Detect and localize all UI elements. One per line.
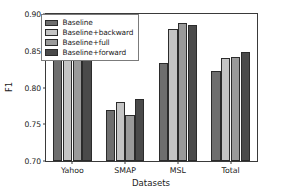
legend-swatch-icon	[45, 29, 58, 35]
x-axis-label: Datasets	[132, 178, 170, 188]
x-tick-label: Total	[222, 166, 240, 175]
y-axis-label: F1	[4, 82, 14, 92]
bar	[178, 23, 187, 161]
bar	[53, 44, 62, 161]
bar	[188, 25, 197, 161]
bar	[116, 102, 125, 161]
legend-swatch-icon	[45, 49, 58, 55]
legend-item-baseline: Baseline	[45, 18, 134, 27]
y-tick-mark	[43, 124, 46, 125]
y-tick-label: 0.90	[24, 10, 41, 19]
x-tick-mark	[72, 161, 73, 164]
legend-label: Baseline+full	[63, 38, 110, 47]
bar	[135, 99, 144, 161]
y-tick-label: 0.70	[24, 157, 41, 166]
bar	[221, 58, 230, 161]
bar	[63, 49, 72, 161]
chart-figure: F1 0.700.750.800.850.90YahooSMAPMSLTotal…	[0, 0, 281, 194]
x-tick-mark	[125, 161, 126, 164]
y-tick-label: 0.75	[24, 120, 41, 129]
y-tick-mark	[43, 161, 46, 162]
legend-swatch-icon	[45, 20, 58, 26]
x-tick-mark	[230, 161, 231, 164]
bar	[106, 110, 115, 161]
x-tick-label: Yahoo	[61, 166, 84, 175]
y-tick-mark	[43, 87, 46, 88]
legend-item-baseline-backward: Baseline+backward	[45, 28, 134, 37]
x-tick-label: MSL	[170, 166, 186, 175]
bar	[125, 115, 134, 161]
x-tick-mark	[177, 161, 178, 164]
bar	[211, 71, 220, 161]
legend-item-baseline-forward: Baseline+forward	[45, 48, 134, 57]
y-tick-label: 0.80	[24, 83, 41, 92]
legend-label: Baseline+backward	[63, 28, 134, 37]
legend: Baseline Baseline+backward Baseline+full…	[41, 14, 139, 61]
y-tick-label: 0.85	[24, 46, 41, 55]
bar	[159, 63, 168, 161]
x-tick-label: SMAP	[114, 166, 136, 175]
legend-item-baseline-full: Baseline+full	[45, 38, 134, 47]
legend-label: Baseline+forward	[63, 48, 126, 57]
bar	[241, 52, 250, 161]
bar	[168, 29, 177, 161]
bar	[231, 57, 240, 161]
legend-label: Baseline	[63, 18, 93, 27]
legend-swatch-icon	[45, 39, 58, 45]
